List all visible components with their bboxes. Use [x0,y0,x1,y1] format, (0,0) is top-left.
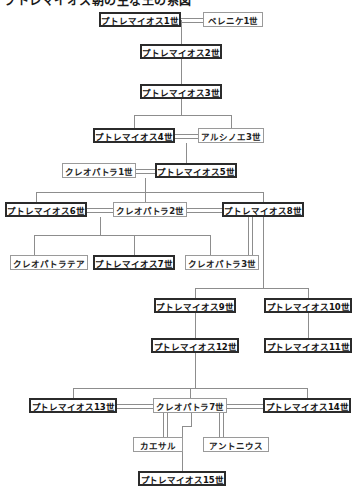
node-label: プトレマイオス12世 [154,340,237,352]
node-ptolemy8: プトレマイオス8世 [222,202,304,217]
node-ptolemy7: プトレマイオス7世 [93,255,175,270]
node-ptolemy4: プトレマイオス4世 [93,128,175,143]
marriage-cleopatra2-ptolemy8 [187,208,222,213]
drop-ptolemy9 [195,288,196,298]
node-ptolemy5: プトレマイオス5世 [155,163,237,178]
drop-ptolemy7 [134,235,135,255]
node-arsinoe3: アルシノエ3世 [198,128,264,143]
descent-gen6-stem [100,217,101,235]
marriage-cleopatra7-ptolemy14 [227,404,263,409]
drop-cleopatra7 [190,388,191,398]
stem-cleopatra3-down [263,235,264,288]
node-label: プトレマイオス14世 [266,400,349,412]
node-label: クレオパトラ2世 [116,204,184,216]
node-label: プトレマイオス10世 [267,300,350,312]
diagram-title: プトレマイオス朝の主な王の系図 [4,0,192,8]
node-label: ベレニケ1世 [208,14,258,26]
node-label: アルシノエ3世 [201,130,260,142]
node-label: アントニウス [209,439,262,451]
node-label: クレオパトラテア [13,257,84,269]
drop-ptolemy8 [263,192,264,202]
descent-ptolemy12-stem [195,353,196,388]
node-ptolemy11: プトレマイオス11世 [264,338,352,353]
node-label: プトレマイオス3世 [142,86,219,98]
node-cleopatra7: クレオパトラ7世 [153,398,227,413]
drop-ptolemy4 [134,115,135,128]
marriage-cleopatra1-ptolemy5 [136,169,155,174]
descent-gen4-ptolemy5 [186,143,187,163]
node-berenike1: ベレニケ1世 [203,12,263,27]
union-bar-gen8 [195,288,308,289]
node-label: プトレマイオス7世 [95,257,172,269]
node-cleopatra2: クレオパトラ2世 [113,202,187,217]
family-tree-diagram: プトレマイオス朝の主な王の系図 プトレマイオス1世ベレニケ1世プトレマイオス2世… [0,0,359,492]
node-label: プトレマイオス6世 [7,204,84,216]
marriage-cleopatra7-caesar [163,413,168,437]
descent-ptolemy10-ptolemy11 [308,313,309,338]
node-ptolemy15: プトレマイオス15世 [138,471,226,486]
descent-cleopatra7-branch [191,413,192,426]
node-label: プトレマイオス13世 [32,400,115,412]
drop-ptolemy13 [73,388,74,398]
node-label: プトレマイオス1世 [101,14,178,26]
node-ptolemy12: プトレマイオス12世 [151,338,239,353]
node-ptolemy3: プトレマイオス3世 [140,84,222,99]
descent-ptolemy3-stem [181,99,182,115]
node-ptolemy2: プトレマイオス2世 [140,44,222,59]
node-cleopatra3: クレオパトラ3世 [185,255,259,270]
node-label: クレオパトラ3世 [188,257,256,269]
descent-ptolemy8-stem [263,217,264,235]
sibling-bar-gen7 [34,235,210,236]
descent-ptolemy2-ptolemy3 [181,59,182,84]
node-label: プトレマイオス15世 [141,473,224,485]
marriage-ptolemy8-cleopatra3 [248,217,253,255]
node-label: プトレマイオス2世 [142,46,219,58]
marriage-ptolemy4-arsinoe3 [175,134,198,139]
node-label: プトレマイオス5世 [157,165,234,177]
marriage-ptolemy6-cleopatra2 [87,208,113,213]
marriage-ptolemy1-berenike1 [181,18,203,23]
drop-cleopatra2 [145,192,146,202]
branch-bar-ptolemy15 [182,426,192,427]
drop-arsinoe3 [231,115,232,128]
sibling-bar-gen6 [36,192,263,193]
sibling-bar-gen4 [134,115,231,116]
drop-cleothea [34,235,35,255]
descent-gen5-stem [145,178,146,192]
drop-cleopatra3 [210,235,211,255]
node-label: プトレマイオス4世 [95,130,172,142]
node-ptolemy10: プトレマイオス10世 [264,298,352,313]
node-label: プトレマイオス9世 [156,300,233,312]
descent-ptolemy9-ptolemy12 [195,313,196,338]
node-label: プトレマイオス11世 [267,340,350,352]
node-cleothea: クレオパトラテア [10,255,88,270]
marriage-ptolemy13-cleopatra7 [117,404,153,409]
node-label: カエサル [140,439,176,451]
node-label: クレオパトラ7世 [156,400,224,412]
node-ptolemy1: プトレマイオス1世 [99,12,181,27]
node-ptolemy9: プトレマイオス9世 [154,298,236,313]
node-label: プトレマイオス8世 [224,204,301,216]
node-cleopatra1: クレオパトラ1世 [62,163,136,178]
node-caesar: カエサル [133,437,183,452]
node-label: クレオパトラ1世 [65,165,133,177]
drop-ptolemy14 [307,388,308,398]
drop-ptolemy10 [308,288,309,298]
node-ptolemy13: プトレマイオス13世 [29,398,117,413]
descent-ptolemy1-ptolemy2 [181,20,182,44]
node-ptolemy6: プトレマイオス6世 [5,202,87,217]
drop-ptolemy6 [36,192,37,202]
node-antonius: アントニウス [203,437,269,452]
node-ptolemy14: プトレマイオス14世 [263,398,351,413]
marriage-cleopatra7-antonius [219,413,224,437]
